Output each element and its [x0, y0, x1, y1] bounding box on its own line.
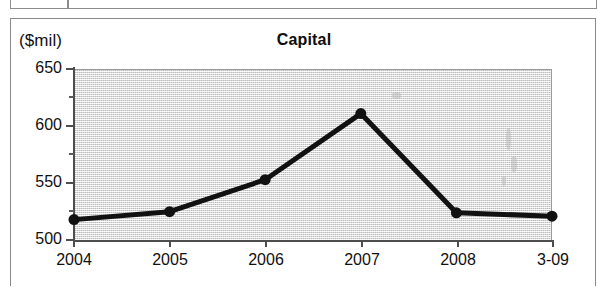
- data-point-2004: [69, 214, 80, 225]
- plot-wrapper: 650 600 550 500 2004 2005 2006 2007 2008…: [11, 19, 597, 287]
- series-markers: [69, 108, 558, 225]
- chart-figure: ($mil) Capital 650 600 550 500 2004 200: [10, 18, 596, 286]
- data-point-2006: [260, 174, 271, 185]
- table-fragment-cell-left: [10, 0, 68, 9]
- data-point-3-09: [547, 211, 558, 222]
- series-line-capital: [74, 114, 552, 220]
- data-point-2005: [164, 206, 175, 217]
- data-point-2007: [355, 108, 366, 119]
- data-point-2008: [451, 207, 462, 218]
- series-plot: [11, 19, 597, 287]
- scanned-table-fragment: [0, 0, 597, 16]
- table-fragment-cell-right: [68, 0, 597, 9]
